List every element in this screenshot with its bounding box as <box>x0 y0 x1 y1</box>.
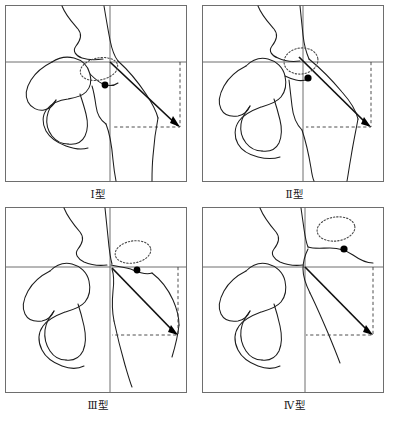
femoral-shaft-medial <box>302 130 314 181</box>
obturator-foramen-lateral <box>262 304 281 360</box>
region-of-interest-ellipse <box>113 238 152 266</box>
landmark-dot <box>340 245 347 252</box>
sacrum-outline <box>260 208 303 265</box>
panel-type-3-drawing <box>0 205 196 395</box>
sacrum-outline <box>258 6 300 61</box>
panel-border <box>203 6 384 182</box>
sacrum-outline <box>62 6 103 60</box>
femoral-neck-medial <box>112 269 114 321</box>
femur-superior-outline <box>104 6 118 61</box>
panel-grid: Ⅰ型 <box>0 0 393 422</box>
panel-type-3: Ⅲ型 <box>0 205 196 422</box>
panel-type-4-caption: Ⅳ型 <box>196 397 393 412</box>
measurement-arrow-line <box>299 57 369 126</box>
iliac-wing-outline <box>23 271 54 321</box>
panel-type-2: Ⅱ型 <box>196 0 393 205</box>
panel-type-2-drawing <box>196 0 393 188</box>
obturator-foramen-lateral <box>68 94 87 144</box>
sacrum-outline <box>64 208 107 265</box>
panel-type-4-drawing <box>196 205 393 395</box>
panel-type-1-drawing <box>0 0 196 188</box>
landmark-dot <box>304 74 311 81</box>
measurement-arrow-line <box>112 268 176 334</box>
iliac-wing-outline <box>219 66 250 116</box>
measurement-arrow-line <box>110 62 178 126</box>
region-of-interest-ellipse <box>316 214 357 243</box>
panel-border <box>203 208 384 393</box>
panel-border <box>6 6 187 182</box>
iliac-wing-outline <box>219 271 250 321</box>
femoral-shaft-medial <box>106 124 116 181</box>
panel-type-1: Ⅰ型 <box>0 0 196 205</box>
measurement-arrow-head <box>170 116 180 127</box>
landmark-dot <box>134 267 141 274</box>
obturator-foramen-medial <box>241 106 262 151</box>
femoral-shaft-medial <box>114 321 132 387</box>
greater-trochanter-outline <box>309 59 358 119</box>
panel-type-2-caption: Ⅱ型 <box>196 186 393 201</box>
femoral-shaft-medial <box>310 293 340 363</box>
femoral-neck-medial <box>289 80 302 130</box>
femur-superior-outline <box>300 6 309 59</box>
greater-trochanter-outline <box>152 273 179 325</box>
measurement-arrow-line <box>305 267 371 334</box>
femoral-neck-medial <box>92 86 106 124</box>
femoral-shaft-lateral <box>347 119 358 181</box>
obturator-foramen-lateral <box>66 304 85 360</box>
panel-border <box>6 208 187 393</box>
landmark-dot <box>102 82 109 89</box>
panel-type-1-caption: Ⅰ型 <box>0 186 196 201</box>
iliac-wing-outline <box>26 62 56 110</box>
panel-type-3-caption: Ⅲ型 <box>0 397 196 412</box>
obturator-foramen-lateral <box>262 99 281 151</box>
innominate-outer-outline <box>43 57 91 149</box>
figure-root: Ⅰ型 <box>0 0 393 422</box>
femur-superior-outline <box>105 208 112 264</box>
panel-type-4: Ⅳ型 <box>196 205 393 422</box>
